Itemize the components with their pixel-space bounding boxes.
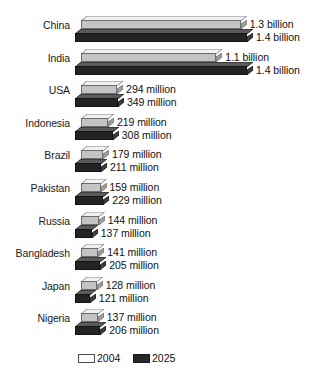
bar-front-face (81, 313, 98, 322)
bar-2004 (81, 309, 104, 322)
chart-row: Russia144 million137 million (0, 210, 331, 242)
category-label: Indonesia (0, 117, 70, 129)
value-label: 1.3 billion (250, 18, 294, 30)
bar-front-face (75, 196, 103, 205)
bar-front-face (81, 183, 101, 192)
value-label: 211 million (110, 161, 159, 173)
value-label: 308 million (122, 129, 172, 141)
value-label: 349 million (127, 96, 177, 108)
bar-side-face (241, 20, 247, 29)
bar-2004 (81, 49, 222, 62)
value-label: 205 million (109, 259, 159, 271)
value-label: 1.4 billion (256, 31, 300, 43)
value-label: 141 million (107, 246, 157, 258)
category-label: India (0, 52, 70, 64)
category-label: Nigeria (0, 312, 70, 324)
bar-front-face (75, 98, 118, 107)
bar-2025 (75, 225, 98, 238)
chart-row: Bangladesh141 million205 million (0, 242, 331, 274)
bar-side-face (117, 85, 123, 94)
bar-side-face (98, 248, 104, 257)
bar-2025 (75, 62, 253, 75)
bar-side-face (90, 294, 96, 303)
bar-side-face (247, 66, 253, 75)
chart-legend: 20042025 (0, 352, 331, 368)
bar-side-face (97, 281, 103, 290)
bar-front-face (75, 131, 113, 140)
bar-front-face (81, 118, 108, 127)
bar-front-face (75, 66, 247, 75)
bar-side-face (101, 163, 107, 172)
bar-2025 (75, 192, 109, 205)
bar-2025 (75, 257, 106, 270)
bar-side-face (216, 53, 222, 62)
category-label: USA (0, 84, 70, 96)
population-bar-chart: China1.3 billion1.4 billionIndia1.1 bill… (0, 0, 331, 378)
value-label: 159 million (110, 181, 160, 193)
chart-row: China1.3 billion1.4 billion (0, 14, 331, 46)
bar-front-face (81, 216, 99, 225)
bar-2004 (81, 146, 109, 159)
legend-label: 2004 (97, 352, 120, 365)
bar-front-face (75, 33, 247, 42)
chart-row: Pakistan159 million229 million (0, 177, 331, 209)
bar-front-face (75, 229, 92, 238)
category-label: China (0, 19, 70, 31)
bar-2025 (75, 127, 119, 140)
chart-row: Nigeria137 million206 million (0, 307, 331, 339)
value-label: 137 million (107, 311, 157, 323)
bar-2025 (75, 322, 106, 335)
bar-2025 (75, 94, 124, 107)
chart-row: Indonesia219 million308 million (0, 112, 331, 144)
legend-label: 2025 (152, 352, 175, 365)
chart-row: India1.1 billion1.4 billion (0, 47, 331, 79)
value-label: 179 million (112, 148, 162, 160)
category-label: Russia (0, 215, 70, 227)
bar-2004 (81, 81, 123, 94)
value-label: 144 million (108, 214, 158, 226)
chart-row: Brazil179 million211 million (0, 144, 331, 176)
chart-row: USA294 million349 million (0, 79, 331, 111)
bar-side-face (103, 196, 109, 205)
bar-side-face (113, 131, 119, 140)
bar-2004 (81, 212, 105, 225)
bar-front-face (75, 163, 101, 172)
bar-2025 (75, 29, 253, 42)
value-label: 128 million (106, 279, 156, 291)
chart-row: Japan128 million121 million (0, 275, 331, 307)
bar-front-face (81, 281, 97, 290)
category-label: Brazil (0, 149, 70, 161)
value-label: 229 million (112, 194, 162, 206)
value-label: 137 million (101, 227, 151, 239)
category-label: Japan (0, 280, 70, 292)
value-label: 219 million (117, 116, 167, 128)
bar-side-face (98, 313, 104, 322)
bar-front-face (75, 261, 100, 270)
category-label: Pakistan (0, 182, 70, 194)
bar-front-face (81, 248, 98, 257)
category-label: Bangladesh (0, 247, 70, 259)
bar-front-face (75, 294, 90, 303)
bar-side-face (92, 229, 98, 238)
bar-side-face (247, 33, 253, 42)
bar-side-face (101, 183, 107, 192)
bar-side-face (100, 326, 106, 335)
bar-front-face (81, 53, 216, 62)
legend-swatch-2025 (133, 354, 150, 363)
bar-side-face (103, 150, 109, 159)
bar-side-face (100, 261, 106, 270)
bar-side-face (99, 216, 105, 225)
bar-2004 (81, 16, 247, 29)
value-label: 121 million (99, 292, 149, 304)
bar-side-face (108, 118, 114, 127)
bar-side-face (118, 98, 124, 107)
bar-front-face (81, 85, 117, 94)
value-label: 206 million (109, 324, 159, 336)
bar-front-face (81, 20, 241, 29)
bar-front-face (81, 150, 103, 159)
bar-2004 (81, 114, 114, 127)
bar-2004 (81, 244, 104, 257)
legend-swatch-2004 (78, 354, 95, 363)
bar-front-face (75, 326, 100, 335)
value-label: 294 million (126, 83, 176, 95)
